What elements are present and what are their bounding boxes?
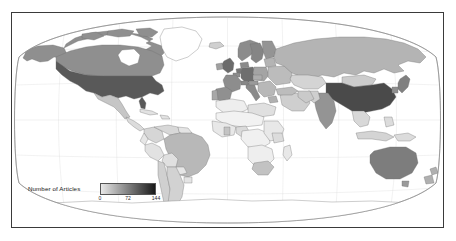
country-greece bbox=[268, 96, 278, 103]
legend-tick-labels: 0 72 144 bbox=[100, 195, 156, 203]
country-austria bbox=[249, 81, 258, 85]
country-portugal bbox=[212, 90, 218, 100]
legend-tick-1: 72 bbox=[125, 195, 131, 201]
legend-tick-0: 0 bbox=[99, 195, 102, 201]
country-ireland bbox=[216, 63, 223, 70]
legend-colorbar bbox=[100, 183, 156, 195]
country-czechia bbox=[253, 75, 262, 80]
legend-title: Number of Articles bbox=[28, 185, 80, 192]
map-legend: Number of Articles 0 72 144 bbox=[28, 181, 168, 203]
country-baltics bbox=[264, 58, 276, 67]
legend-tick-2: 144 bbox=[152, 195, 160, 201]
country-denmark bbox=[240, 62, 249, 68]
country-uruguay bbox=[184, 177, 192, 183]
country-switzerland bbox=[241, 81, 248, 85]
country-south-korea bbox=[392, 87, 398, 93]
country-tasmania bbox=[402, 181, 409, 187]
figure-container: Number of Articles 0 72 144 bbox=[0, 0, 456, 241]
country-kenya bbox=[272, 133, 284, 143]
country-ghana bbox=[224, 127, 230, 135]
map-frame: Number of Articles 0 72 144 bbox=[11, 12, 444, 228]
